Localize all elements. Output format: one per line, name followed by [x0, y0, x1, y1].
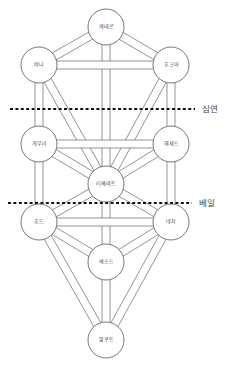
node-label: 게부라 [32, 140, 47, 147]
node-label: 비나 [34, 61, 44, 68]
node-keter: 케테르 [88, 9, 124, 45]
node-label: 예소드 [99, 258, 114, 265]
node-chesed: 헤세드 [153, 126, 189, 162]
node-chokmah: 호크마 [153, 47, 189, 83]
tree-of-life-diagram: 심연베일 케테르비나호크마게부라헤세드티페레트호드네차예소드말쿠트 [0, 0, 225, 370]
node-malkuth: 말쿠트 [88, 322, 124, 358]
node-tiphareth: 티페레트 [88, 166, 124, 202]
veil-label: 베일 [199, 198, 215, 208]
path-binah-chokmah [39, 61, 171, 69]
node-binah: 비나 [21, 47, 57, 83]
node-label: 말쿠트 [99, 336, 114, 343]
node-label: 호크마 [164, 61, 179, 68]
node-geburah: 게부라 [21, 126, 57, 162]
node-label: 호드 [34, 218, 44, 224]
node-yesod: 예소드 [88, 244, 124, 280]
node-label: 티페레트 [96, 180, 116, 187]
node-label: 헤세드 [164, 140, 179, 147]
node-hod: 호드 [21, 204, 57, 240]
node-label: 네차 [166, 218, 176, 225]
path-geburah-chesed [39, 140, 171, 148]
abyss-label: 심연 [202, 104, 218, 114]
node-label: 케테르 [99, 23, 114, 30]
path-keter-tiphareth [102, 27, 110, 184]
node-netzach: 네차 [153, 204, 189, 240]
path-hod-netzach [39, 218, 171, 226]
